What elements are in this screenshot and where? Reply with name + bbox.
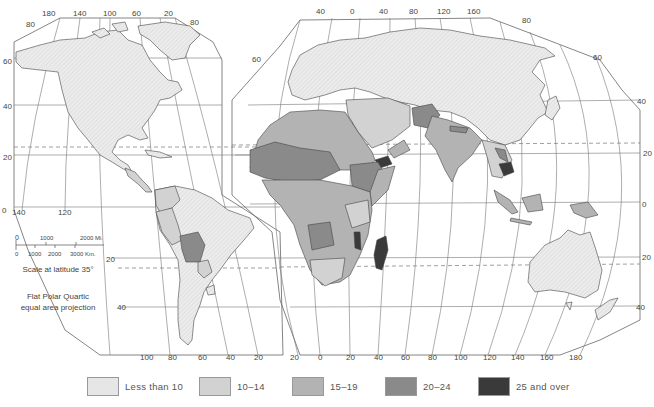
svg-text:80: 80 <box>428 353 437 362</box>
swatch-20-24 <box>385 377 417 396</box>
svg-text:80: 80 <box>26 20 35 29</box>
svg-text:60: 60 <box>401 353 410 362</box>
legend-item-25-and-over: 25 and over <box>478 373 569 399</box>
svg-text:1000: 1000 <box>28 251 42 257</box>
projection-line-2: equal area projection <box>8 302 108 313</box>
svg-text:20: 20 <box>3 153 12 162</box>
svg-text:80: 80 <box>522 16 531 25</box>
svg-text:2000 Mi.: 2000 Mi. <box>80 235 103 241</box>
svg-text:1000: 1000 <box>40 235 54 241</box>
svg-text:140: 140 <box>73 9 87 18</box>
legend-item-20-24: 20–24 <box>385 373 451 399</box>
eastern-hemisphere-panel <box>232 18 640 355</box>
svg-text:140: 140 <box>511 353 525 362</box>
north-america <box>16 30 182 172</box>
svg-text:20: 20 <box>346 353 355 362</box>
svg-text:0: 0 <box>2 206 7 215</box>
svg-text:180: 180 <box>569 353 583 362</box>
world-choropleth-map: 180 140 100 60 20 80 80 60 40 20 0 140 1… <box>0 0 654 407</box>
svg-text:2000: 2000 <box>48 251 62 257</box>
svg-text:40: 40 <box>636 303 645 312</box>
svg-text:80: 80 <box>409 7 418 16</box>
svg-text:60: 60 <box>252 55 261 64</box>
svg-text:3000 Km.: 3000 Km. <box>70 251 96 257</box>
svg-text:80: 80 <box>190 18 199 27</box>
malawi <box>354 232 361 250</box>
svg-text:140: 140 <box>12 208 26 217</box>
papua-new-guinea <box>570 202 598 218</box>
indonesia <box>494 190 518 214</box>
svg-text:160: 160 <box>540 353 554 362</box>
swatch-10-14 <box>199 377 231 396</box>
map-notes: 0 1000 2000 Mi. 0 1000 2000 3000 Km. Sca… <box>8 234 108 313</box>
new-zealand <box>595 298 618 320</box>
swatch-15-19 <box>292 377 324 396</box>
madagascar <box>374 236 388 270</box>
svg-text:40: 40 <box>316 7 325 16</box>
svg-text:0: 0 <box>318 353 323 362</box>
svg-text:120: 120 <box>58 208 72 217</box>
central-america <box>125 168 152 192</box>
svg-text:60: 60 <box>593 53 602 62</box>
legend-item-15-19: 15–19 <box>292 373 358 399</box>
svg-text:180: 180 <box>42 9 56 18</box>
svg-text:60: 60 <box>132 9 141 18</box>
svg-text:60: 60 <box>3 57 12 66</box>
svg-text:0: 0 <box>642 200 647 209</box>
svg-text:60: 60 <box>198 353 207 362</box>
svg-text:20: 20 <box>642 253 651 262</box>
legend-item-less-than-10: Less than 10 <box>87 373 183 399</box>
svg-text:40: 40 <box>226 353 235 362</box>
svg-text:20: 20 <box>254 353 263 362</box>
projection-line-1: Flat Polar Quartic <box>8 291 108 302</box>
angola <box>308 222 334 250</box>
svg-text:40: 40 <box>3 102 12 111</box>
svg-text:20: 20 <box>290 353 299 362</box>
svg-text:100: 100 <box>103 9 117 18</box>
scale-bar: 0 1000 2000 Mi. 0 1000 2000 3000 Km. <box>8 234 108 258</box>
swatch-less-than-10 <box>87 377 119 396</box>
svg-text:0: 0 <box>15 251 19 257</box>
svg-text:40: 40 <box>374 353 383 362</box>
svg-text:80: 80 <box>168 353 177 362</box>
svg-text:100: 100 <box>140 353 154 362</box>
svg-text:0: 0 <box>350 7 355 16</box>
svg-text:40: 40 <box>379 7 388 16</box>
svg-text:120: 120 <box>483 353 497 362</box>
scale-caption: Scale at latitude 35° <box>8 264 108 275</box>
svg-text:100: 100 <box>454 353 468 362</box>
svg-text:120: 120 <box>437 7 451 16</box>
japan <box>545 96 560 120</box>
australia <box>528 230 602 298</box>
south-asia <box>425 116 482 182</box>
svg-text:20: 20 <box>164 9 173 18</box>
svg-text:160: 160 <box>467 7 481 16</box>
svg-text:20: 20 <box>643 149 652 158</box>
legend-item-10-14: 10–14 <box>199 373 265 399</box>
legend: Less than 10 10–14 15–19 20–24 25 and ov… <box>0 373 654 399</box>
svg-text:40: 40 <box>117 303 126 312</box>
svg-text:40: 40 <box>637 97 646 106</box>
swatch-25-and-over <box>478 377 510 396</box>
svg-text:0: 0 <box>15 234 19 241</box>
